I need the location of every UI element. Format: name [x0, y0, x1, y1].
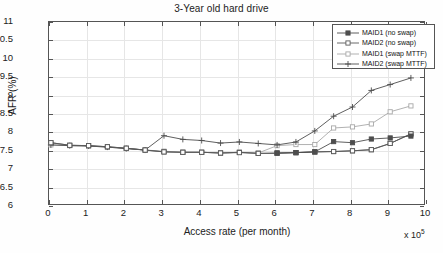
data-point-marker	[199, 137, 205, 143]
y-tick-label: 6	[0, 199, 13, 210]
x-tick-label: 0	[33, 207, 63, 218]
y-tick-label: 7.5	[0, 144, 13, 155]
y-tick-label: 8.5	[0, 107, 13, 118]
data-point-marker	[369, 122, 373, 126]
data-point-marker	[409, 134, 413, 138]
data-point-marker	[388, 136, 392, 140]
series-maid2-no-swap	[49, 132, 413, 156]
x-tick-label: 4	[184, 207, 214, 218]
data-point-marker	[49, 141, 53, 145]
legend-marker-plus	[336, 59, 360, 69]
x-axis-multiplier-exponent: 5	[421, 228, 425, 235]
data-point-marker	[313, 142, 317, 146]
y-tick-label: 8	[0, 125, 13, 136]
data-point-marker	[180, 136, 186, 142]
data-point-marker	[86, 144, 90, 148]
x-tick-label: 7	[297, 207, 327, 218]
data-point-marker	[346, 30, 350, 34]
chart-title: 3-Year old hard drive	[0, 3, 443, 14]
legend-marker-filled-square	[336, 28, 360, 38]
data-point-marker	[181, 150, 185, 154]
series-line	[51, 78, 411, 150]
y-tick-label: 10	[0, 52, 13, 63]
legend-marker-open-square	[336, 38, 360, 48]
data-point-marker	[255, 140, 261, 146]
series-line	[51, 134, 411, 154]
legend-label: MAID2 (no swap)	[362, 38, 416, 48]
x-axis-multiplier: x 105	[404, 228, 425, 240]
legend-item-2[interactable]: MAID2 (no swap)	[336, 38, 431, 48]
data-point-marker	[350, 125, 354, 129]
data-point-marker	[369, 137, 373, 141]
legend-item-3[interactable]: MAID1 (swap MTTF)	[336, 49, 431, 59]
legend-label: MAID1 (no swap)	[362, 28, 416, 38]
data-point-marker	[218, 151, 222, 155]
legend-item-4[interactable]: MAID2 (swap MTTF)	[336, 59, 431, 69]
legend-label: MAID1 (swap MTTF)	[362, 49, 427, 59]
series-maid1-swap-mttf	[49, 104, 413, 155]
chart-legend: MAID1 (no swap)MAID2 (no swap)MAID1 (swa…	[332, 24, 435, 69]
data-point-marker	[387, 82, 393, 88]
y-tick-label: 9.5	[0, 70, 13, 81]
x-axis-multiplier-base: x 10	[404, 230, 421, 240]
data-point-marker	[369, 148, 373, 152]
x-tick-mark	[426, 200, 427, 204]
data-point-marker	[105, 145, 109, 149]
chart-figure: 3-Year old hard drive AFR (%) Access rat…	[0, 0, 443, 253]
data-point-marker	[218, 140, 224, 146]
x-axis-label: Access rate (per month)	[48, 226, 426, 237]
data-point-marker	[408, 75, 414, 81]
series-maid1-no-swap	[49, 132, 413, 156]
data-point-marker	[143, 148, 147, 152]
x-tick-label: 5	[222, 207, 252, 218]
data-point-marker	[409, 104, 413, 108]
data-point-marker	[332, 140, 336, 144]
legend-label: MAID2 (swap MTTF)	[362, 59, 427, 69]
x-tick-label: 6	[259, 207, 289, 218]
y-tick-label: 6.5	[0, 181, 13, 192]
x-tick-label: 10	[410, 207, 440, 218]
data-point-marker	[162, 150, 166, 154]
y-tick-label: 7	[0, 162, 13, 173]
data-point-marker	[124, 146, 128, 150]
y-tick-label: 11	[0, 15, 13, 26]
legend-item-1[interactable]: MAID1 (no swap)	[336, 28, 431, 38]
data-point-marker	[332, 149, 336, 153]
data-point-marker	[388, 141, 392, 145]
data-point-marker	[332, 126, 336, 130]
legend-marker-light-square	[336, 49, 360, 59]
data-point-marker	[345, 61, 351, 67]
data-point-marker	[350, 141, 354, 145]
x-tick-label: 3	[146, 207, 176, 218]
x-tick-label: 1	[71, 207, 101, 218]
y-tick-label: 10.5	[0, 33, 13, 44]
data-point-marker	[350, 149, 354, 153]
data-point-marker	[388, 110, 392, 114]
x-tick-label: 8	[335, 207, 365, 218]
data-point-marker	[313, 150, 317, 154]
data-point-marker	[294, 151, 298, 155]
data-point-marker	[200, 150, 204, 154]
y-tick-label: 9	[0, 89, 13, 100]
data-point-marker	[256, 151, 260, 155]
data-point-marker	[275, 151, 279, 155]
data-point-marker	[68, 143, 72, 147]
data-point-marker	[236, 139, 242, 145]
data-point-marker	[346, 41, 350, 45]
x-tick-label: 2	[108, 207, 138, 218]
x-tick-label: 9	[372, 207, 402, 218]
data-point-marker	[346, 51, 350, 55]
data-point-marker	[237, 151, 241, 155]
